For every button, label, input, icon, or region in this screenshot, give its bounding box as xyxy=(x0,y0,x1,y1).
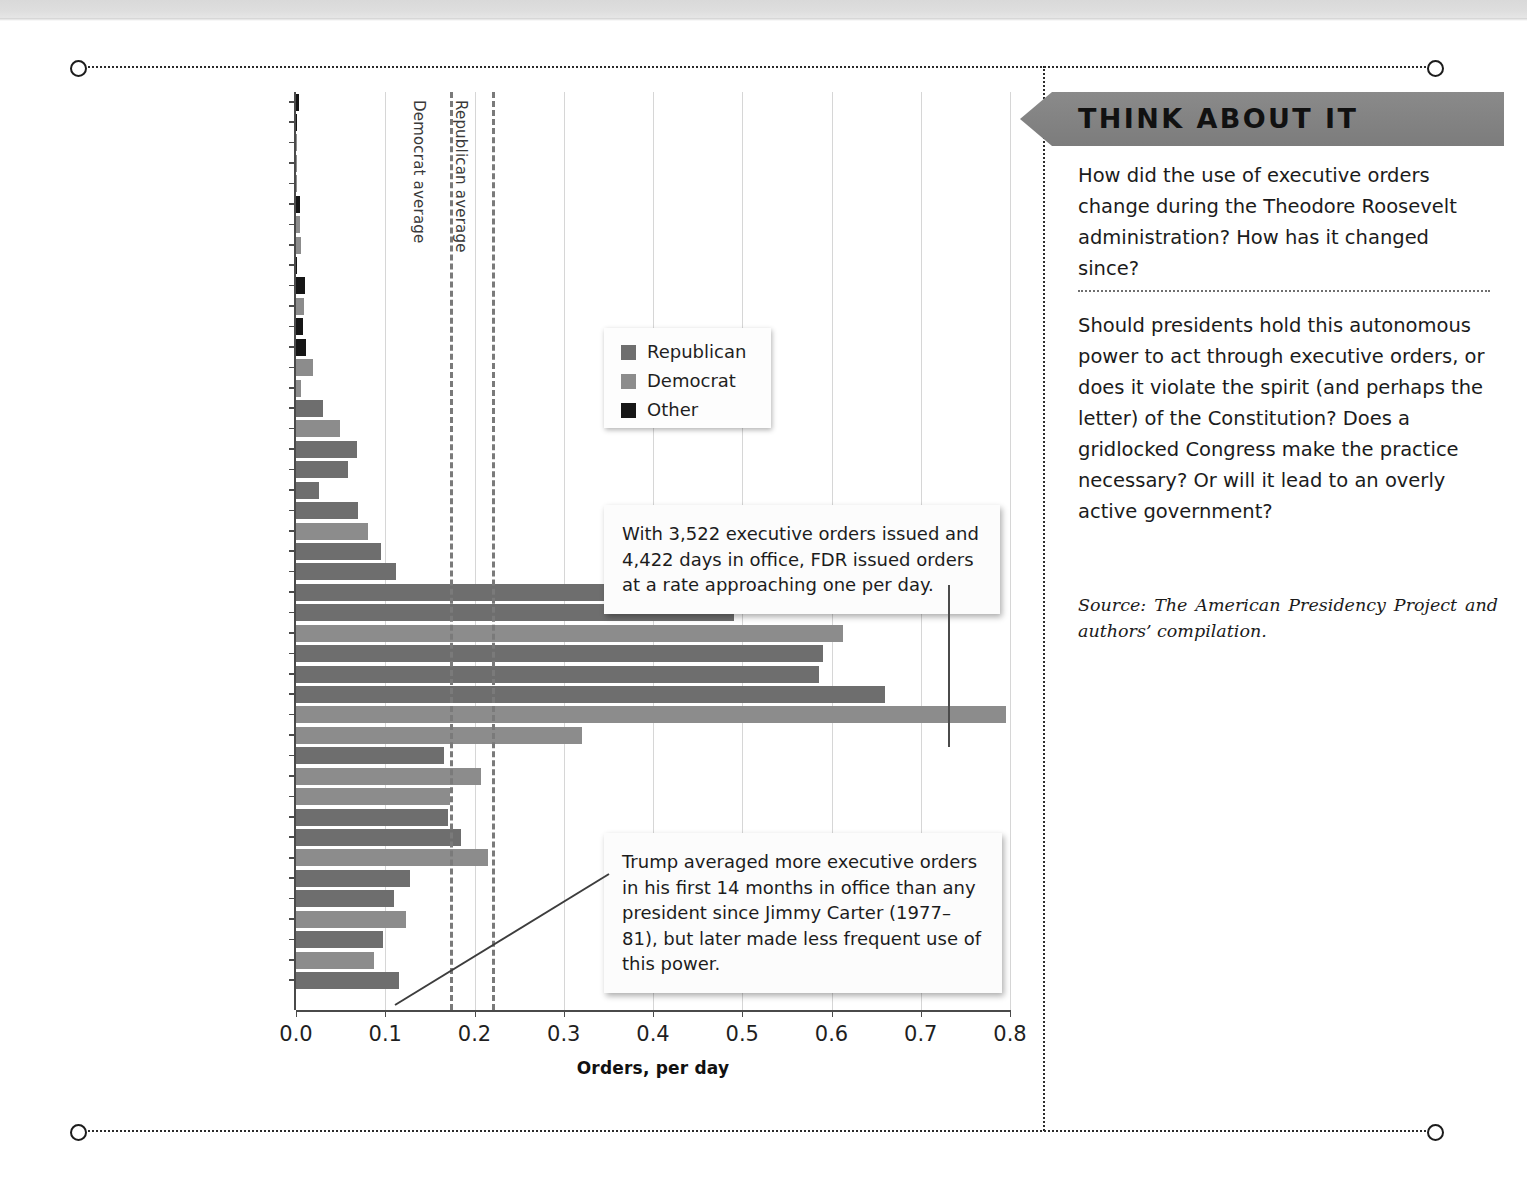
y-axis-tick xyxy=(289,367,296,369)
y-axis-tick xyxy=(289,775,296,777)
bar-row: Harry Truman xyxy=(296,725,1010,745)
x-axis-title: Orders, per day xyxy=(577,1058,730,1078)
y-axis-tick xyxy=(289,918,296,920)
bar-row: Andrew Jackson xyxy=(296,215,1010,235)
bar xyxy=(296,625,843,642)
y-axis-tick xyxy=(289,224,296,226)
y-axis-tick xyxy=(289,591,296,593)
bar-row: Dwight D. Eisenhower xyxy=(296,746,1010,766)
y-axis-tick xyxy=(289,857,296,859)
y-axis-tick xyxy=(289,877,296,879)
y-axis-tick xyxy=(289,796,296,798)
bar xyxy=(296,175,297,192)
y-axis-tick xyxy=(289,469,296,471)
bar xyxy=(296,380,301,397)
y-axis-tick xyxy=(289,346,296,348)
sidebar-banner: THINK ABOUT IT xyxy=(1020,92,1504,146)
legend-label-other: Other xyxy=(647,399,698,421)
callout-trump-leader-line xyxy=(393,872,611,1007)
bar-row: Thomas Jefferson xyxy=(296,133,1010,153)
bar-row: James Madison xyxy=(296,153,1010,173)
gridline xyxy=(1010,92,1011,1010)
bar xyxy=(296,563,396,580)
bar xyxy=(296,318,303,335)
bar xyxy=(296,400,323,417)
bar-row: Martin Van Buren xyxy=(296,235,1010,255)
average-line-label: Republican average xyxy=(452,100,470,253)
bar xyxy=(296,134,297,151)
sidebar-title: THINK ABOUT IT xyxy=(1078,92,1358,146)
x-axis-tick xyxy=(1010,1010,1011,1017)
y-axis-tick xyxy=(289,285,296,287)
y-axis-tick xyxy=(289,571,296,573)
legend-label-democrat: Democrat xyxy=(647,370,736,392)
y-axis-tick xyxy=(289,510,296,512)
callout-fdr-leader-line xyxy=(948,585,950,747)
legend-label-republican: Republican xyxy=(647,341,746,363)
y-axis-tick xyxy=(289,407,296,409)
x-axis-tick-label: 0.3 xyxy=(547,1022,580,1046)
callout-trump: Trump averaged more executive orders in … xyxy=(604,833,1002,993)
bar xyxy=(296,972,399,989)
y-axis-tick xyxy=(289,693,296,695)
bar xyxy=(296,931,383,948)
x-axis-tick xyxy=(742,1010,743,1017)
bar-row: Ulysses Grant xyxy=(296,439,1010,459)
y-axis-tick xyxy=(289,448,296,450)
bar-row: William H. Harrison xyxy=(296,255,1010,275)
bar-row: Richard Nixon xyxy=(296,807,1010,827)
y-axis-tick xyxy=(289,162,296,164)
bar xyxy=(296,482,319,499)
bar xyxy=(296,298,304,315)
sidebar-dotted-rule xyxy=(1078,290,1490,292)
bar-row: James Monroe xyxy=(296,174,1010,194)
x-axis-tick-label: 0.2 xyxy=(458,1022,491,1046)
x-axis-tick xyxy=(296,1010,297,1017)
y-axis-tick xyxy=(289,264,296,266)
y-axis-tick xyxy=(289,101,296,103)
x-axis-tick xyxy=(475,1010,476,1017)
bar-row: John Adams xyxy=(296,112,1010,132)
bar xyxy=(296,216,300,233)
y-axis-tick xyxy=(289,387,296,389)
bar xyxy=(296,257,297,274)
y-axis-tick xyxy=(289,612,296,614)
bar-row: Rutherford Hayes xyxy=(296,460,1010,480)
y-axis-tick xyxy=(289,203,296,205)
bar xyxy=(296,706,1006,723)
bar xyxy=(296,420,340,437)
legend-swatch-other xyxy=(621,403,636,418)
bar-row: James K. Polk xyxy=(296,296,1010,316)
bar-row: John Q. Adams xyxy=(296,194,1010,214)
bar xyxy=(296,461,348,478)
bar xyxy=(296,727,582,744)
bar xyxy=(296,94,299,111)
bar-row: George Washington xyxy=(296,92,1010,112)
y-axis-tick xyxy=(289,755,296,757)
bar xyxy=(296,502,358,519)
x-axis-tick-label: 0.8 xyxy=(993,1022,1026,1046)
bar-row: Woodrow Wilson xyxy=(296,623,1010,643)
sidebar-question-1: How did the use of executive orders chan… xyxy=(1078,160,1493,284)
bar xyxy=(296,441,357,458)
y-axis-tick xyxy=(289,326,296,328)
bar-row: Herbert Hoover xyxy=(296,684,1010,704)
bar-row: Warren Harding xyxy=(296,644,1010,664)
bar xyxy=(296,196,300,213)
bar-row: Franklin D. Roosevelt xyxy=(296,705,1010,725)
y-axis-tick xyxy=(289,530,296,532)
x-axis-tick-label: 0.4 xyxy=(636,1022,669,1046)
y-axis-tick xyxy=(289,836,296,838)
bar xyxy=(296,339,306,356)
sidebar-source-note: Source: The American Presidency Project … xyxy=(1078,592,1498,644)
x-axis-tick xyxy=(921,1010,922,1017)
bar-row: John Tyler xyxy=(296,276,1010,296)
bar xyxy=(296,809,448,826)
bar xyxy=(296,277,305,294)
bar-row: Lyndon B. Johnson xyxy=(296,787,1010,807)
y-axis-tick xyxy=(289,714,296,716)
x-axis-tick-label: 0.0 xyxy=(279,1022,312,1046)
y-axis-tick xyxy=(289,142,296,144)
x-axis-tick xyxy=(385,1010,386,1017)
y-axis-tick xyxy=(289,734,296,736)
